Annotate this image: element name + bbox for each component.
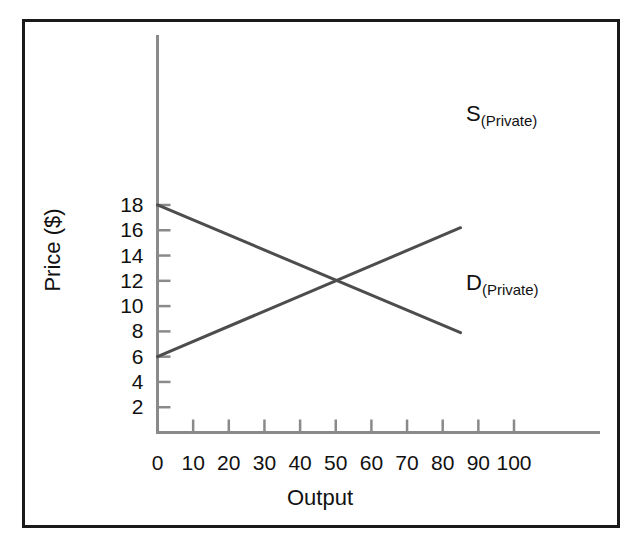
chart-series-group — [158, 205, 461, 357]
chart-figure: 24681012141618 0102030405060708090100 Pr… — [0, 0, 642, 547]
y-tick-label: 10 — [100, 295, 144, 316]
demand-curve-label: D(Private) — [466, 272, 539, 297]
y-axis-title-text: Price ($) — [40, 208, 66, 291]
y-tick-label: 18 — [100, 194, 144, 215]
supply-curve — [158, 228, 461, 357]
supply-curve-label-main: S — [466, 101, 481, 126]
demand-curve-label-main: D — [466, 270, 482, 295]
x-tick-label: 100 — [487, 452, 541, 473]
y-tick-label: 2 — [100, 396, 144, 417]
y-tick-label: 6 — [100, 346, 144, 367]
y-tick-label: 8 — [100, 320, 144, 341]
x-axis-title: Output — [230, 485, 410, 511]
y-tick-label: 4 — [100, 371, 144, 392]
demand-curve — [158, 205, 461, 333]
y-tick-label: 14 — [100, 245, 144, 266]
supply-curve-label: S(Private) — [466, 103, 537, 128]
demand-curve-label-sub: (Private) — [482, 281, 539, 298]
y-axis-ticks — [158, 205, 171, 407]
y-tick-label: 16 — [100, 219, 144, 240]
y-axis-title: Price ($) — [37, 175, 69, 325]
x-axis-ticks — [193, 420, 514, 433]
y-tick-label: 12 — [100, 270, 144, 291]
supply-curve-label-sub: (Private) — [481, 112, 538, 129]
